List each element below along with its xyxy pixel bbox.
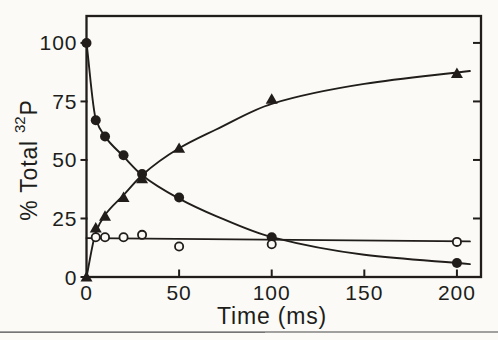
x-tick-label: 150 bbox=[345, 281, 383, 304]
y-axis-title: % Total32P bbox=[15, 99, 44, 220]
y-axis-title-text: % Total bbox=[16, 140, 42, 221]
marker-filled-triangle bbox=[99, 210, 111, 220]
marker-filled-triangle bbox=[173, 142, 185, 152]
marker-open-circle bbox=[175, 242, 183, 250]
marker-filled-circle bbox=[452, 258, 462, 268]
x-tick-label: 100 bbox=[253, 281, 291, 304]
x-tick-label: 200 bbox=[438, 281, 476, 304]
marker-open-circle bbox=[138, 231, 146, 239]
scan-artifact-line-dark bbox=[0, 332, 265, 333]
marker-filled-circle bbox=[100, 132, 110, 142]
y-tick-label: 100 bbox=[39, 31, 77, 54]
x-tick-label: 50 bbox=[166, 281, 191, 304]
plot-svg: 0501001502000255075100 bbox=[0, 0, 498, 340]
isotope-superscript: 32 bbox=[11, 116, 28, 133]
x-axis-title: Time (ms) bbox=[217, 303, 327, 330]
y-tick-label: 50 bbox=[52, 148, 77, 171]
y-tick-label: 25 bbox=[52, 207, 77, 230]
marker-open-circle bbox=[101, 233, 109, 241]
marker-filled-circle bbox=[119, 150, 129, 160]
marker-open-circle bbox=[453, 238, 461, 246]
y-tick-label: 75 bbox=[52, 90, 77, 113]
marker-open-circle bbox=[268, 240, 276, 248]
marker-filled-triangle bbox=[266, 93, 278, 103]
marker-filled-circle bbox=[82, 38, 92, 48]
marker-filled-triangle bbox=[118, 192, 130, 202]
figure-canvas: 0501001502000255075100 Time (ms) % Total… bbox=[0, 0, 498, 340]
marker-open-circle bbox=[92, 233, 100, 241]
marker-filled-circle bbox=[174, 192, 184, 202]
marker-open-circle bbox=[119, 233, 127, 241]
marker-filled-circle bbox=[91, 115, 101, 125]
y-tick-label: 0 bbox=[65, 266, 78, 289]
x-tick-label: 0 bbox=[80, 281, 93, 304]
y-axis-title-element: P bbox=[16, 99, 42, 115]
